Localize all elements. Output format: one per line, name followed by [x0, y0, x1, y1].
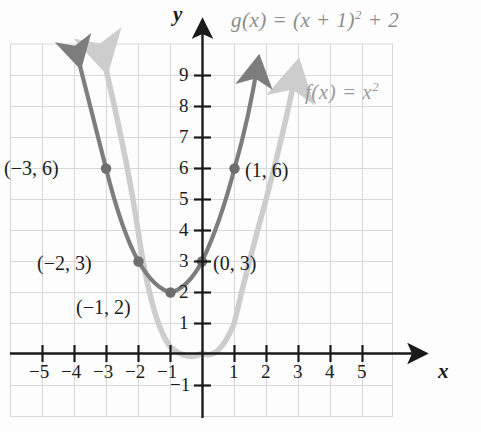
- x-tick-label-neg2: −2: [125, 361, 145, 383]
- function-label-f-text: f(x) = x: [305, 80, 372, 104]
- y-tick-label-8: 8: [179, 95, 189, 117]
- x-tick-label-3: 3: [293, 361, 303, 383]
- annotation-0-3: (0, 3): [213, 252, 256, 275]
- point-marker: [165, 287, 175, 297]
- y-tick-label-2: 2: [179, 281, 189, 303]
- annotation-neg3-6: (−3, 6): [4, 157, 59, 180]
- graph-figure: g(x) = (x + 1)2 + 2 f(x) = x2 y x (−3, 6…: [0, 0, 481, 432]
- annotation-neg2-3: (−2, 3): [37, 252, 92, 275]
- point-marker: [229, 163, 239, 173]
- x-tick-label-neg3: −3: [93, 361, 113, 383]
- x-tick-label-1: 1: [229, 361, 239, 383]
- function-label-g-tail: + 2: [362, 8, 399, 32]
- x-axis-label: x: [438, 359, 449, 384]
- function-label-f-exponent: 2: [372, 79, 379, 94]
- x-tick-label-5: 5: [357, 361, 367, 383]
- function-label-g: g(x) = (x + 1)2 + 2: [231, 7, 399, 33]
- point-marker: [101, 163, 111, 173]
- y-axis-label: y: [173, 2, 182, 27]
- annotation-1-6: (1, 6): [245, 159, 288, 182]
- y-tick-label-4: 4: [179, 219, 189, 241]
- x-tick-label-4: 4: [325, 361, 335, 383]
- annotation-1-6-text: (1, 6): [245, 159, 288, 181]
- y-tick-label-7: 7: [179, 126, 189, 148]
- y-axis-label-text: y: [173, 2, 182, 26]
- y-tick-label-1: 1: [179, 312, 189, 334]
- y-tick-label-5: 5: [179, 188, 189, 210]
- curve-f: [105, 65, 297, 356]
- annotation-neg2-3-text: (−2, 3): [37, 252, 92, 274]
- function-label-g-exponent: 2: [355, 7, 362, 22]
- x-tick-label-neg4: −4: [61, 361, 81, 383]
- annotation-neg3-6-text: (−3, 6): [4, 157, 59, 179]
- x-axis-label-text: x: [438, 359, 449, 383]
- annotation-neg1-2: (−1, 2): [76, 296, 131, 319]
- y-tick-label-3: 3: [179, 250, 189, 272]
- y-tick-label-6: 6: [179, 157, 189, 179]
- x-tick-label-2: 2: [261, 361, 271, 383]
- point-marker: [133, 256, 143, 266]
- y-tick-label-9: 9: [179, 64, 189, 86]
- annotation-neg1-2-text: (−1, 2): [76, 296, 131, 318]
- function-label-f: f(x) = x2: [305, 79, 379, 105]
- y-tick-label-neg1: −1: [170, 374, 190, 396]
- annotation-0-3-text: (0, 3): [213, 252, 256, 274]
- x-tick-label-neg5: −5: [29, 361, 49, 383]
- function-label-g-text: g(x) = (x + 1): [231, 8, 355, 32]
